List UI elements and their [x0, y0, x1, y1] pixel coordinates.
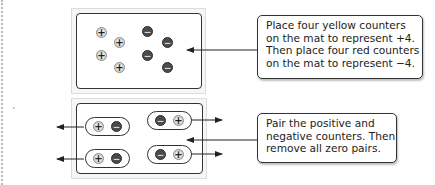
arrows-layer — [0, 0, 435, 185]
